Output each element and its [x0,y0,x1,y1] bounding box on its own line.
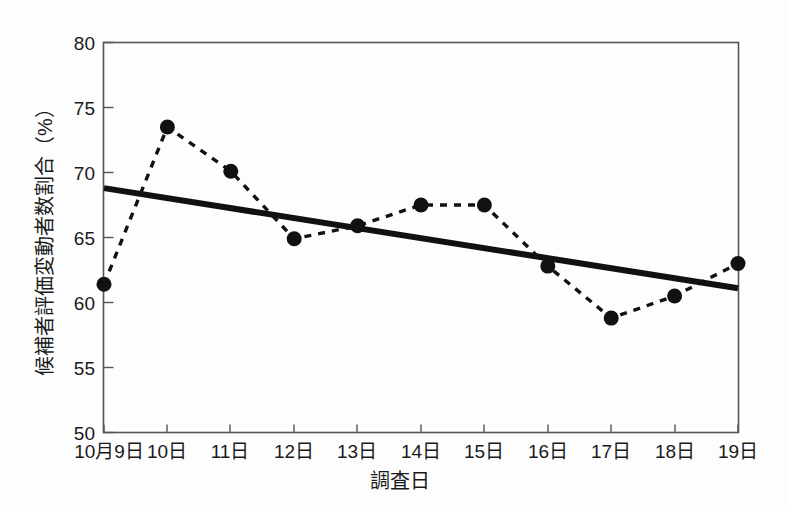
y-axis-title: 候補者評価変動者数割合（%） [34,98,56,376]
data-series-line [104,127,738,318]
x-tick-label: 12日 [274,441,314,462]
y-tick-label: 75 [74,98,95,119]
data-point-marker [223,164,238,179]
x-tick-label: 17日 [591,441,631,462]
y-axis-ticks [104,43,114,433]
data-point-marker [604,311,619,326]
y-tick-label: 55 [74,358,95,379]
x-axis-ticks [104,425,738,433]
y-tick-label: 65 [74,228,95,249]
data-series-markers [97,120,746,326]
x-tick-label: 14日 [401,441,441,462]
y-axis-tick-labels: 80 75 70 65 60 55 50 [74,33,95,444]
chart-figure: 80 75 70 65 60 55 50 10月9日 10日 11日 12日 1… [0,0,788,510]
x-axis-tick-labels: 10月9日 10日 11日 12日 13日 14日 15日 16日 17日 18… [74,441,758,462]
x-tick-label: 18日 [655,441,695,462]
data-point-marker [667,289,682,304]
data-point-marker [350,218,365,233]
data-point-marker [731,256,746,271]
data-point-marker [160,120,175,135]
x-tick-label: 15日 [464,441,504,462]
data-point-marker [477,198,492,213]
x-tick-label: 16日 [528,441,568,462]
x-tick-label: 19日 [718,441,758,462]
x-axis-title: 調査日 [370,470,430,492]
data-point-marker [540,259,555,274]
data-point-marker [287,231,302,246]
chart-plot: 80 75 70 65 60 55 50 10月9日 10日 11日 12日 1… [0,0,788,510]
data-point-marker [97,277,112,292]
x-tick-label: 11日 [211,441,250,462]
data-point-marker [414,198,429,213]
x-tick-label: 13日 [337,441,377,462]
x-tick-label: 10日 [147,441,187,462]
x-tick-label: 10月9日 [74,441,144,462]
y-tick-label: 70 [74,163,95,184]
y-tick-label: 60 [74,293,95,314]
y-tick-label: 80 [74,33,95,54]
